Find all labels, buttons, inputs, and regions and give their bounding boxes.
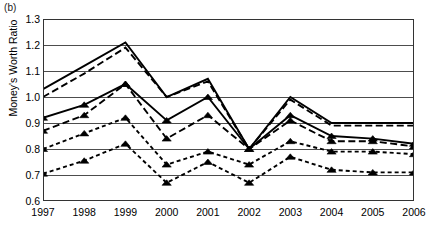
y-tick-label: 1.1 xyxy=(14,66,40,77)
x-tick-label: 1998 xyxy=(64,206,104,218)
series-series-6-shortdash-triangle-lower xyxy=(43,141,414,185)
data-point-marker xyxy=(121,141,130,146)
x-tick-label: 2000 xyxy=(147,206,187,218)
data-point-marker xyxy=(80,130,89,135)
x-tick-label: 2001 xyxy=(188,206,228,218)
data-point-marker xyxy=(286,154,295,159)
data-point-marker xyxy=(121,81,130,86)
data-point-marker xyxy=(286,112,295,117)
series-line xyxy=(43,42,414,149)
x-axis-tick-labels: 1997199819992000200120022003200420052006 xyxy=(43,203,414,221)
y-tick-label: 1.2 xyxy=(14,40,40,51)
data-point-marker xyxy=(162,162,171,167)
data-point-marker xyxy=(80,158,89,163)
axis-frame xyxy=(44,20,414,201)
y-tick-label: 0.6 xyxy=(14,196,40,207)
data-point-marker xyxy=(286,138,295,143)
data-point-marker xyxy=(203,159,212,164)
x-tick-label: 2003 xyxy=(270,206,310,218)
x-tick-label: 2004 xyxy=(312,206,352,218)
y-tick-label: 1.0 xyxy=(14,92,40,103)
x-tick-label: 2005 xyxy=(353,206,393,218)
y-tick-label: 1.3 xyxy=(14,14,40,25)
x-tick-label: 1997 xyxy=(23,206,63,218)
plot-svg xyxy=(43,19,414,201)
data-point-marker xyxy=(121,115,130,120)
series-line xyxy=(43,144,414,183)
y-axis-tick-labels: 0.60.70.80.91.01.11.21.3 xyxy=(8,19,40,201)
data-series-layer xyxy=(43,42,414,185)
y-tick-label: 0.7 xyxy=(14,170,40,181)
money-worth-ratio-chart: (b) Money's Worth Ratio 0.60.70.80.91.01… xyxy=(0,0,427,233)
x-tick-label: 2002 xyxy=(229,206,269,218)
plot-frame xyxy=(44,20,414,201)
x-tick-label: 2006 xyxy=(394,206,427,218)
series-series-1-solid-upper xyxy=(43,42,414,149)
x-tick-label: 1999 xyxy=(105,206,145,218)
data-point-marker xyxy=(203,112,212,117)
y-tick-label: 0.9 xyxy=(14,118,40,129)
y-tick-label: 0.8 xyxy=(14,144,40,155)
plot-area xyxy=(43,19,414,201)
